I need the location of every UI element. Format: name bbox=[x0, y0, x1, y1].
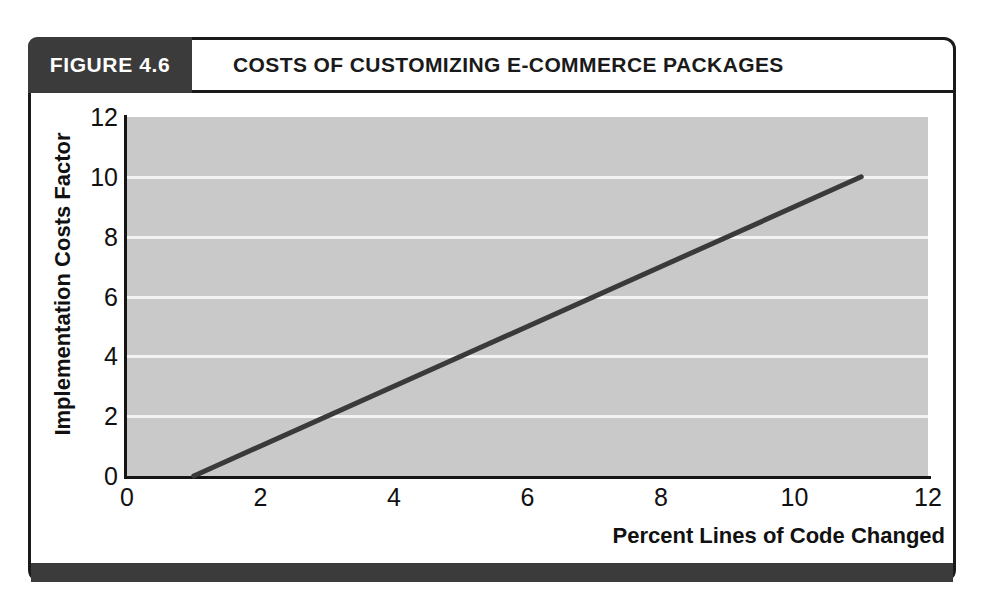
figure-number-label: FIGURE 4.6 bbox=[50, 53, 170, 77]
x-axis-title: Percent Lines of Code Changed bbox=[28, 523, 945, 549]
x-tick-label: 8 bbox=[626, 485, 696, 510]
x-tick-label: 0 bbox=[92, 485, 162, 510]
data-series-line bbox=[127, 117, 928, 476]
figure-title: COSTS OF CUSTOMIZING E-COMMERCE PACKAGES bbox=[192, 37, 956, 93]
x-tick-label: 2 bbox=[226, 485, 296, 510]
x-axis-line bbox=[124, 476, 931, 479]
x-tick-label: 6 bbox=[493, 485, 563, 510]
figure-bottom-bar bbox=[31, 563, 953, 582]
x-tick-labels: 024681012 bbox=[127, 485, 928, 517]
x-tick-label: 4 bbox=[359, 485, 429, 510]
figure-header: FIGURE 4.6 COSTS OF CUSTOMIZING E-COMMER… bbox=[28, 37, 956, 93]
chart-area: 024681012 024681012 Implementation Costs… bbox=[28, 93, 956, 582]
x-tick-label: 10 bbox=[760, 485, 830, 510]
series-polyline bbox=[194, 177, 862, 476]
y-axis-title: Implementation Costs Factor bbox=[50, 104, 76, 464]
x-tick-label: 12 bbox=[893, 485, 963, 510]
figure-number-badge: FIGURE 4.6 bbox=[28, 37, 192, 93]
